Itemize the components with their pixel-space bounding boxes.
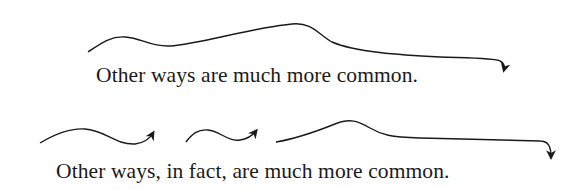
example-sentence-2: Other ways, in fact, are much more commo… xyxy=(56,159,449,184)
arc-2c-icon xyxy=(276,121,551,157)
example-sentence-1: Other ways are much more common. xyxy=(96,63,418,88)
arc-2b-icon xyxy=(186,130,256,142)
figure: Other ways are much more common. Other w… xyxy=(0,0,585,190)
arc-2a-icon xyxy=(40,129,153,144)
